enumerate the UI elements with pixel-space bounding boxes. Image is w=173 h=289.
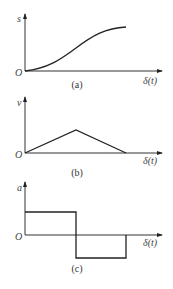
x-axis-label: δ(t) bbox=[143, 155, 158, 167]
panel-caption: (c) bbox=[71, 263, 82, 275]
origin-label: O bbox=[15, 67, 22, 78]
panel-b-velocity: v O δ(t) (b) bbox=[15, 97, 162, 179]
panel-caption: (a) bbox=[71, 79, 82, 91]
panel-caption: (b) bbox=[71, 167, 83, 179]
panel-c-acceleration: a O δ(t) (c) bbox=[15, 182, 162, 275]
y-axis-label: a bbox=[17, 182, 22, 193]
y-axis-label: s bbox=[17, 13, 21, 24]
origin-label: O bbox=[15, 149, 22, 160]
velocity-curve bbox=[25, 130, 126, 153]
x-axis-label: δ(t) bbox=[143, 75, 158, 87]
x-axis-label: δ(t) bbox=[143, 237, 158, 249]
panel-a-displacement: s O δ(t) (a) bbox=[15, 13, 162, 91]
motion-curves-figure: s O δ(t) (a) v O δ(t) (b) a O δ(t) (c) bbox=[0, 0, 173, 289]
y-axis-label: v bbox=[17, 97, 22, 108]
displacement-curve bbox=[25, 27, 126, 71]
origin-label: O bbox=[15, 231, 22, 242]
